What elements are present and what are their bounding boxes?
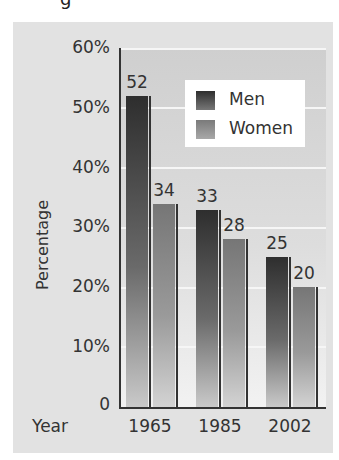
legend-label-men: Men — [229, 89, 265, 109]
bar-divider — [246, 239, 248, 407]
ytick-60: 60% — [50, 37, 110, 57]
bar-divider — [316, 287, 318, 407]
ytick-40: 40% — [50, 157, 110, 177]
legend-swatch-men — [196, 91, 215, 110]
gridline-40 — [121, 167, 326, 169]
value-label-men-1965: 52 — [117, 72, 157, 92]
value-label-women-2002: 20 — [284, 263, 324, 283]
gridline-60 — [121, 48, 326, 50]
value-label-men-2002: 25 — [257, 233, 297, 253]
ytick-30: 30% — [50, 216, 110, 236]
value-label-men-1985: 33 — [187, 186, 227, 206]
ytick-50: 50% — [50, 97, 110, 117]
bar-women-1965 — [153, 204, 175, 407]
legend: Men Women — [185, 80, 305, 147]
y-axis-label: Percentage — [33, 200, 52, 290]
xtick-1965: 1965 — [120, 416, 180, 436]
x-axis-label: Year — [32, 416, 68, 436]
xtick-2002: 2002 — [260, 416, 320, 436]
bar-women-1985 — [223, 239, 245, 407]
title-fragment: g — [60, 0, 71, 9]
ytick-10: 10% — [50, 336, 110, 356]
ytick-20: 20% — [50, 276, 110, 296]
bar-men-1965 — [126, 96, 148, 407]
bar-divider — [219, 210, 221, 407]
legend-swatch-women — [196, 120, 215, 139]
ytick-0: 0 — [50, 394, 110, 414]
value-label-women-1965: 34 — [144, 180, 184, 200]
bar-divider — [176, 204, 178, 407]
bar-women-2002 — [293, 287, 315, 407]
xtick-1985: 1985 — [190, 416, 250, 436]
legend-label-women: Women — [229, 118, 293, 138]
bar-men-1985 — [196, 210, 218, 407]
value-label-women-1985: 28 — [214, 215, 254, 235]
bar-divider — [149, 96, 151, 407]
